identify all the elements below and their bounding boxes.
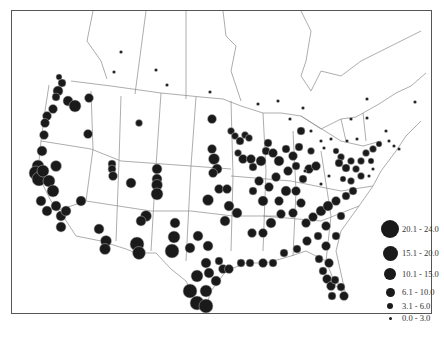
legend-label: 20.1 - 24.0 <box>402 224 439 234</box>
legend-label: 0.0 - 3.0 <box>402 313 430 323</box>
map-canvas <box>12 11 432 314</box>
circle-icon <box>384 268 396 280</box>
map-frame <box>11 10 432 314</box>
legend-item: 20.1 - 24.0 <box>380 222 439 236</box>
legend-item: 10.1 - 15.0 <box>380 267 439 281</box>
symbols <box>29 50 417 313</box>
legend-item: 0.0 - 3.0 <box>380 311 430 325</box>
legend-label: 15.1 - 20.0 <box>402 248 439 258</box>
circle-icon <box>386 288 395 297</box>
borders <box>39 11 426 307</box>
circle-icon <box>381 220 399 238</box>
legend-label: 3.1 - 6.0 <box>402 301 430 311</box>
legend-item: 15.1 - 20.0 <box>380 246 439 260</box>
legend-item: 6.1 - 10.0 <box>380 285 435 299</box>
circle-icon <box>383 246 398 261</box>
circle-icon <box>389 317 392 320</box>
circle-icon <box>387 303 393 309</box>
legend-label: 10.1 - 15.0 <box>402 269 439 279</box>
legend-label: 6.1 - 10.0 <box>402 287 435 297</box>
